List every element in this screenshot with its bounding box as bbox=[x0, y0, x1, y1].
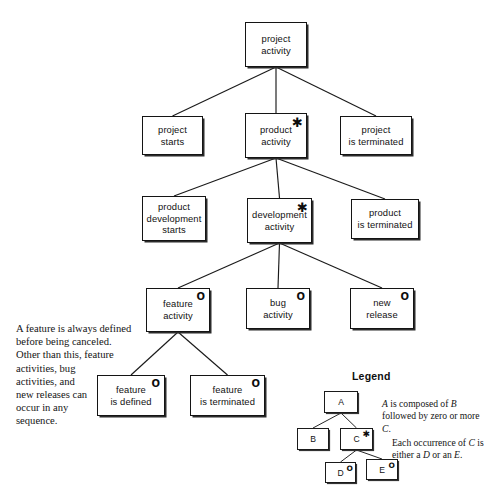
diagram-canvas: project activityproject startsproduct ac… bbox=[0, 0, 491, 492]
edge-development-activity-to-bug-activity bbox=[278, 243, 280, 288]
node-development-activity[interactable]: development activity✱ bbox=[247, 198, 312, 243]
node-label: project is terminated bbox=[347, 124, 406, 147]
node-feature-is-terminated[interactable]: feature is terminatedO bbox=[190, 375, 265, 416]
optional-marker-icon: O bbox=[196, 292, 205, 302]
node-bug-activity[interactable]: bug activityO bbox=[246, 288, 310, 329]
node-label: bug activity bbox=[261, 297, 294, 320]
node-legend-b[interactable]: B bbox=[297, 428, 329, 450]
node-feature-activity[interactable]: feature activityO bbox=[146, 288, 210, 332]
legend-description-1: A is composed of B followed by zero or m… bbox=[382, 398, 488, 435]
node-label: feature activity bbox=[161, 298, 195, 321]
edge-legend-a-to-legend-c bbox=[341, 413, 357, 428]
node-label: product activity bbox=[258, 124, 294, 147]
node-legend-a[interactable]: A bbox=[324, 391, 358, 413]
node-product-development-starts[interactable]: product development starts bbox=[142, 196, 206, 241]
edge-development-activity-to-new-release bbox=[280, 243, 383, 288]
legend-title: Legend bbox=[352, 370, 391, 382]
node-legend-d[interactable]: DO bbox=[325, 462, 356, 483]
iteration-marker-icon: ✱ bbox=[362, 430, 370, 439]
node-project-is-terminated[interactable]: project is terminated bbox=[340, 116, 412, 155]
edge-legend-c-to-legend-e bbox=[357, 450, 383, 459]
edge-product-activity-to-development-activity bbox=[276, 158, 280, 198]
node-label: A bbox=[338, 397, 344, 407]
explanatory-note: A feature is always defined before being… bbox=[16, 322, 140, 428]
edge-project-activity-to-project-is-terminated bbox=[276, 67, 376, 116]
node-label: project starts bbox=[156, 124, 189, 147]
node-label: C bbox=[353, 434, 359, 444]
edge-project-activity-to-project-starts bbox=[173, 67, 277, 116]
optional-marker-icon: O bbox=[296, 292, 305, 302]
edge-legend-a-to-legend-b bbox=[313, 413, 341, 428]
node-new-release[interactable]: new releaseO bbox=[350, 288, 414, 329]
edge-development-activity-to-feature-activity bbox=[178, 243, 280, 288]
edge-legend-c-to-legend-d bbox=[341, 450, 357, 462]
node-label: project activity bbox=[259, 33, 292, 56]
node-legend-e[interactable]: EO bbox=[366, 459, 398, 480]
node-label: D bbox=[337, 468, 343, 478]
node-label: development activity bbox=[250, 209, 309, 232]
optional-marker-icon: O bbox=[347, 465, 353, 473]
node-product-activity[interactable]: product activity✱ bbox=[245, 113, 307, 158]
optional-marker-icon: O bbox=[400, 292, 409, 302]
node-project-starts[interactable]: project starts bbox=[142, 116, 203, 155]
node-label: feature is terminated bbox=[198, 384, 257, 407]
edge-product-activity-to-product-is-terminated bbox=[276, 158, 385, 199]
node-project-activity[interactable]: project activity bbox=[245, 22, 307, 67]
node-label: product development starts bbox=[145, 201, 204, 236]
node-label: product is terminated bbox=[356, 207, 415, 230]
edge-product-activity-to-product-development-starts bbox=[174, 158, 276, 196]
node-label: B bbox=[310, 434, 316, 444]
optional-marker-icon: O bbox=[389, 462, 395, 470]
edge-feature-activity-to-feature-is-terminated bbox=[178, 332, 228, 375]
legend-description-2: Each occurrence of C is either a D or an… bbox=[392, 437, 490, 462]
node-product-is-terminated[interactable]: product is terminated bbox=[351, 199, 419, 239]
node-legend-c[interactable]: C✱ bbox=[340, 428, 373, 450]
node-label: new release bbox=[364, 297, 399, 320]
node-label: E bbox=[379, 465, 385, 475]
